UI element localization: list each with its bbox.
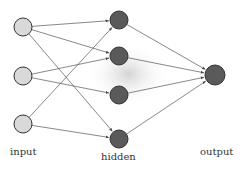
input-layer-label: input: [10, 146, 37, 157]
hidden-node-h3: [110, 86, 128, 104]
output-layer-label: output: [200, 146, 233, 157]
edge-i3-h4: [32, 125, 109, 137]
input-node-i2: [14, 67, 32, 85]
edge-i1-h2: [32, 30, 110, 54]
hidden-layer-label: hidden: [101, 151, 136, 162]
input-node-i3: [14, 115, 32, 133]
edge-i1-h1: [32, 21, 109, 27]
hidden-node-h1: [110, 11, 128, 29]
hidden-node-h4: [110, 130, 128, 148]
hidden-node-h2: [110, 47, 128, 65]
input-node-i1: [14, 18, 32, 36]
output-node-o1: [205, 65, 225, 85]
neural-network-diagram: [0, 0, 244, 169]
